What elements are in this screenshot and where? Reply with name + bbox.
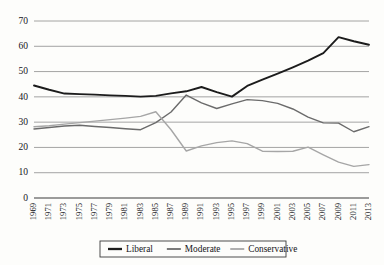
x-axis-tick-label: 2003 [287,203,297,220]
y-axis-tick-label: 60 [19,41,29,51]
line-chart-figure: 010203040506070 196919711973197519771979… [0,0,384,265]
legend-label-moderate: Moderate [185,244,221,254]
x-axis-tick-label: 1977 [89,202,99,220]
y-axis-tick-label: 40 [19,92,29,102]
x-axis-tick-label: 1979 [104,203,114,220]
series-line-moderate [34,95,369,132]
x-axis-tick-label: 1995 [226,203,236,220]
y-axis-tick-label: 10 [19,167,29,177]
y-axis-tick-label: 20 [19,142,29,152]
x-axis-tick-label: 2001 [272,203,282,220]
data-series-group [34,37,369,166]
x-axis-tick-label: 1989 [180,203,190,220]
x-axis-tick-label: 1997 [241,202,251,220]
x-axis-tick-label: 1975 [74,203,84,220]
y-axis-tick-label: 50 [19,66,29,76]
series-line-conservative [34,112,369,167]
y-axis-tick-labels: 010203040506070 [19,16,29,203]
x-axis-tick-labels: 1969197119731975197719791981198319851987… [28,202,373,220]
x-axis-tick-label: 1981 [119,203,129,220]
x-axis-tick-label: 1985 [150,203,160,220]
x-axis-tick-label: 1971 [43,203,53,220]
x-axis-tick-label: 1983 [135,203,145,220]
x-axis-tick-label: 2013 [363,203,373,220]
x-axis-tick-label: 1973 [58,203,68,220]
x-axis-tick-label: 2011 [348,203,358,220]
legend-label-liberal: Liberal [126,244,153,254]
x-axis-tick-label: 1969 [28,203,38,220]
chart-svg: 010203040506070 196919711973197519771979… [0,0,384,265]
x-axis-tick-label: 1999 [256,203,266,220]
x-axis-tick-label: 1991 [195,203,205,220]
y-axis-tick-label: 30 [19,117,29,127]
legend: LiberalModerateConservative [100,241,297,257]
x-axis-tick-label: 2007 [317,202,327,220]
x-axis-tick-label: 1993 [211,203,221,220]
y-axis-tick-label: 70 [19,16,29,26]
y-axis-tick-label: 0 [23,193,28,203]
x-axis-tick-label: 1987 [165,202,175,220]
x-axis-tick-label: 2009 [333,203,343,220]
legend-label-conservative: Conservative [248,244,297,254]
x-axis-tick-label: 2005 [302,203,312,220]
gridlines-group [34,21,369,173]
